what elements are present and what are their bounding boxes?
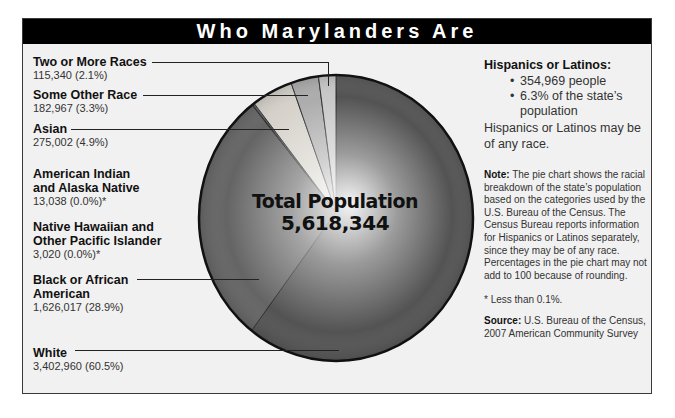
hispanic-title: Hispanics or Latinos: [484,58,649,72]
label-value: 13,038 (0.0%)* [33,195,140,208]
label-some-other-race: Some Other Race 182,967 (3.3%) [33,88,137,115]
leader-line [71,129,289,130]
label-value: 182,967 (3.3%) [33,102,137,115]
leader-line [328,62,329,86]
label-name: White [33,346,124,360]
footnote: * Less than 0.1%. [484,294,649,305]
total-population-title: Total Population [230,190,440,212]
hispanic-bullet-continued: population [520,104,649,119]
note-text: The pie chart shows the racial breakdown… [484,169,647,281]
label-name: American Indian [33,167,140,181]
total-population-label: Total Population 5,618,344 [230,190,440,234]
hispanic-note: Hispanics or Latinos may be of any race. [484,120,649,152]
side-notes: Hispanics or Latinos: 354,969 people 6.3… [484,58,649,341]
hispanic-bullet: 354,969 people [520,74,649,89]
label-value: 3,402,960 (60.5%) [33,360,124,373]
label-name: Some Other Race [33,88,137,102]
label-native-hawaiian: Native Hawaiian and Other Pacific Island… [33,220,162,261]
label-name: Native Hawaiian and [33,220,162,234]
label-name: Two or More Races [33,55,147,69]
label-name: American [33,287,128,301]
leader-line [152,62,329,63]
leader-line [143,95,308,96]
label-american-indian: American Indian and Alaska Native 13,038… [33,167,140,208]
leader-line [137,279,259,280]
label-value: 3,020 (0.0%)* [33,248,162,261]
label-value: 1,626,017 (28.9%) [33,301,128,314]
label-name: Other Pacific Islander [33,234,162,248]
note: Note: The pie chart shows the racial bre… [484,169,649,282]
total-population-value: 5,618,344 [230,212,440,234]
label-black-african-american: Black or African American 1,626,017 (28.… [33,273,128,314]
label-value: 275,002 (4.9%) [33,136,108,149]
leader-line [75,350,339,351]
label-value: 115,340 (2.1%) [33,69,147,82]
source: Source: U.S. Bureau of the Census, 2007 … [484,315,649,340]
hispanic-bullets: 354,969 people 6.3% of the state’s popul… [484,74,649,119]
label-name: and Alaska Native [33,181,140,195]
note-label: Note: [484,169,510,180]
hispanic-bullet: 6.3% of the state’s [520,89,649,104]
source-label: Source: [484,315,521,326]
label-name: Black or African [33,273,128,287]
hispanic-section: Hispanics or Latinos: 354,969 people 6.3… [484,58,649,152]
label-asian: Asian 275,002 (4.9%) [33,122,108,149]
label-two-or-more-races: Two or More Races 115,340 (2.1%) [33,55,147,82]
